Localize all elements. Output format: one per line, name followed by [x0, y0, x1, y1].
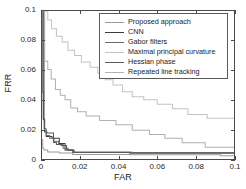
legend-line-swatch [105, 52, 124, 53]
x-tick [119, 156, 120, 160]
legend-label: Repeated line tracking [128, 68, 200, 76]
x-tick-label: 0.02 [65, 163, 95, 171]
x-tick-top [235, 10, 236, 14]
y-tick-right [231, 70, 235, 71]
legend-item[interactable]: Repeated line tracking [103, 67, 224, 77]
y-tick-label: 0.1 [6, 6, 36, 14]
x-tick [80, 156, 81, 160]
legend-label: Gabor filters [128, 38, 167, 46]
legend-label: CNN [128, 28, 144, 36]
x-tick-label: 0.06 [142, 163, 172, 171]
x-tick-label: 0.08 [181, 163, 211, 171]
legend-item[interactable]: Gabor filters [103, 37, 224, 47]
y-tick [41, 70, 45, 71]
y-tick [41, 100, 45, 101]
y-tick-label: 0.02 [6, 126, 36, 134]
x-axis-title: FAR [0, 172, 246, 182]
legend-item[interactable]: Hessian phase [103, 57, 224, 67]
x-tick [41, 156, 42, 160]
legend-item[interactable]: Maximal principal curvature [103, 47, 224, 57]
legend-line-swatch [105, 72, 124, 73]
legend-label: Maximal principal curvature [128, 48, 215, 56]
y-tick [41, 130, 45, 131]
x-tick [196, 156, 197, 160]
y-tick-right [231, 160, 235, 161]
y-tick-label: 0.08 [6, 36, 36, 44]
x-tick-top [80, 10, 81, 14]
x-tick-label: 0 [26, 163, 56, 171]
legend-line-swatch [105, 62, 124, 63]
x-tick [235, 156, 236, 160]
y-tick [41, 40, 45, 41]
y-axis-title: FRR [3, 63, 13, 103]
legend-line-swatch [105, 42, 124, 43]
x-tick-top [41, 10, 42, 14]
y-tick-right [231, 130, 235, 131]
y-tick-right [231, 40, 235, 41]
legend-line-swatch [105, 22, 124, 23]
legend-label: Hessian phase [128, 58, 176, 66]
legend-label: Proposed approach [128, 18, 191, 26]
legend-item[interactable]: Proposed approach [103, 17, 224, 27]
y-tick-right [231, 100, 235, 101]
y-tick [41, 160, 45, 161]
x-tick-label: 0.1 [220, 163, 246, 171]
legend-line-swatch [105, 32, 124, 33]
x-tick [157, 156, 158, 160]
figure: 00.020.040.060.080.100.020.040.060.080.1… [0, 0, 246, 189]
legend-item[interactable]: CNN [103, 27, 224, 37]
x-tick-label: 0.04 [104, 163, 134, 171]
legend: Proposed approachCNNGabor filtersMaximal… [99, 13, 228, 79]
